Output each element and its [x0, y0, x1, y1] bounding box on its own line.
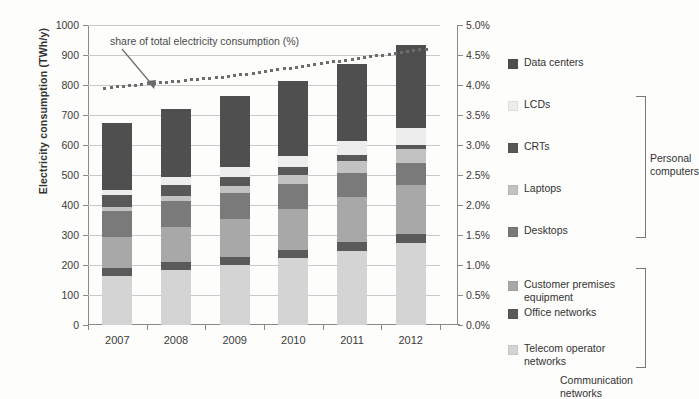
- line-marker: [221, 76, 224, 79]
- secondary-y-axis-tick-label: 4.5%: [466, 50, 490, 60]
- bar-segment: [161, 262, 191, 270]
- legend-item[interactable]: Office networks: [508, 306, 596, 319]
- line-marker: [276, 68, 279, 71]
- gridline: [88, 265, 440, 266]
- line-marker: [332, 60, 335, 63]
- bar-2009: [220, 96, 250, 326]
- gridline: [88, 175, 440, 176]
- legend-item-label: Data centers: [524, 56, 584, 69]
- bar-segment: [220, 265, 250, 325]
- bar-segment: [220, 257, 250, 265]
- bar-segment: [396, 185, 426, 235]
- y-axis-tick: [83, 235, 88, 236]
- plot-area: 010020030040050060070080090010000.0%0.5%…: [88, 25, 440, 325]
- bar-segment: [102, 276, 132, 325]
- line-marker: [103, 87, 106, 90]
- x-axis-tick-label: 2011: [322, 334, 382, 346]
- line-marker: [326, 61, 329, 64]
- line-marker: [245, 73, 248, 76]
- bar-segment: [396, 149, 426, 163]
- y-axis-tick-label: 100: [61, 290, 79, 300]
- bar-segment: [161, 185, 191, 196]
- line-marker: [363, 56, 366, 59]
- y-axis-tick-label: 200: [61, 260, 79, 270]
- legend-swatch-icon: [508, 227, 518, 237]
- x-axis-tick: [323, 325, 324, 330]
- line-marker: [344, 59, 347, 62]
- line-marker: [320, 62, 323, 65]
- bar-segment: [161, 177, 191, 185]
- legend-item[interactable]: LCDs: [508, 98, 550, 111]
- bar-segment: [337, 155, 367, 161]
- gridline: [88, 295, 440, 296]
- line-marker: [307, 64, 310, 67]
- y-axis-tick: [83, 25, 88, 26]
- secondary-y-axis-tick-label: 0.0%: [466, 320, 490, 330]
- bar-segment: [337, 251, 367, 325]
- y-axis-tick-label: 900: [61, 50, 79, 60]
- bar-segment: [278, 209, 308, 250]
- bar-segment: [161, 109, 191, 177]
- bar-segment: [102, 195, 132, 207]
- legend-item[interactable]: CRTs: [508, 140, 549, 153]
- bar-segment: [161, 227, 191, 262]
- secondary-y-axis-tick: [458, 265, 463, 266]
- y-axis-tick-label: 700: [61, 110, 79, 120]
- y-axis-tick-label: 500: [61, 170, 79, 180]
- secondary-y-axis-tick: [458, 325, 463, 326]
- secondary-y-axis-tick-label: 0.5%: [466, 290, 490, 300]
- bar-segment: [396, 145, 426, 149]
- legend-item[interactable]: Customer premises equipment: [508, 278, 644, 303]
- y-axis-tick: [83, 115, 88, 116]
- group-label-communication-networks: Communication networks: [560, 374, 633, 399]
- bar-segment: [102, 268, 132, 276]
- x-axis-tick: [147, 325, 148, 330]
- bar-segment: [396, 163, 426, 185]
- line-marker: [289, 67, 292, 70]
- line-marker: [196, 78, 199, 81]
- bar-segment: [278, 250, 308, 259]
- bar-segment: [220, 193, 250, 219]
- legend-swatch-icon: [508, 309, 518, 319]
- secondary-y-axis-tick-label: 5.0%: [466, 20, 490, 30]
- bar-segment: [161, 201, 191, 227]
- x-axis-tick-label: 2007: [87, 334, 147, 346]
- legend-item[interactable]: Laptops: [508, 182, 561, 195]
- line-marker: [184, 79, 187, 82]
- line-marker: [283, 67, 286, 70]
- legend-item[interactable]: Desktops: [508, 224, 568, 237]
- y-axis-tick-label: 400: [61, 200, 79, 210]
- line-marker: [252, 72, 255, 75]
- line-marker: [110, 86, 113, 89]
- bar-segment: [278, 184, 308, 209]
- line-marker: [208, 77, 211, 80]
- line-marker: [227, 75, 230, 78]
- x-axis-tick: [88, 325, 89, 330]
- x-axis-tick-label: 2010: [263, 334, 323, 346]
- group-label-personal-computers: Personal computers: [650, 152, 699, 177]
- gridline: [88, 25, 440, 26]
- secondary-y-axis-tick-label: 3.5%: [466, 110, 490, 120]
- legend-item[interactable]: Data centers: [508, 56, 584, 69]
- bar-segment: [396, 243, 426, 325]
- gridline: [88, 115, 440, 116]
- bar-2007: [102, 123, 132, 325]
- line-marker: [338, 60, 341, 63]
- line-marker: [351, 58, 354, 61]
- secondary-y-axis-tick-label: 2.5%: [466, 170, 490, 180]
- line-marker: [301, 65, 304, 68]
- x-axis-tick: [381, 325, 382, 330]
- legend-swatch-icon: [508, 281, 518, 291]
- secondary-y-axis-tick-label: 2.0%: [466, 200, 490, 210]
- gridline: [88, 145, 440, 146]
- legend-swatch-icon: [508, 59, 518, 69]
- bar-segment: [278, 175, 308, 184]
- legend-item[interactable]: Telecom operator networks: [508, 342, 644, 367]
- bar-segment: [337, 173, 367, 197]
- bar-segment: [220, 177, 250, 186]
- bar-segment: [337, 141, 367, 155]
- line-marker: [258, 71, 261, 74]
- bar-segment: [278, 258, 308, 325]
- annotation-label: share of total electricity consumption (…: [110, 35, 299, 47]
- y-axis-tick-label: 300: [61, 230, 79, 240]
